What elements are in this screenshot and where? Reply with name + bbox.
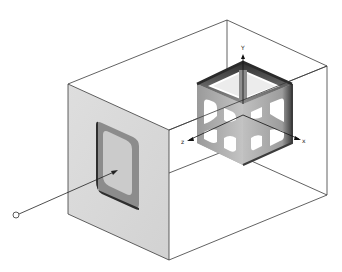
x-axis-arrowhead	[294, 136, 301, 140]
z-axis-label: z	[181, 138, 184, 145]
y-axis-arrowhead	[241, 54, 245, 59]
x-axis-label: x	[302, 137, 306, 144]
diagram-canvas: Y x z	[0, 0, 342, 272]
source-point-icon	[13, 212, 19, 218]
z-axis-arrowhead	[187, 137, 194, 141]
cube-frame	[197, 62, 292, 165]
y-axis-label: Y	[240, 44, 245, 51]
